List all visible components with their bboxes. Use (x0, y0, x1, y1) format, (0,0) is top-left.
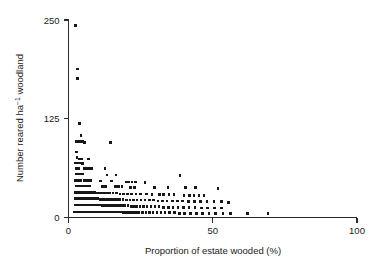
data-point (206, 207, 209, 210)
data-point (122, 193, 125, 196)
data-point (83, 167, 86, 170)
data-point (76, 68, 79, 71)
data-point (182, 206, 185, 209)
data-point (164, 211, 167, 214)
x-axis-title: Proportion of estate wooded (%) (145, 245, 281, 256)
data-point (115, 192, 118, 195)
data-point (160, 211, 163, 214)
data-point (144, 181, 147, 184)
data-point (229, 212, 232, 215)
data-point (135, 205, 138, 208)
data-point (130, 193, 133, 196)
data-point (83, 179, 86, 182)
data-point (127, 204, 130, 207)
data-point (79, 140, 82, 143)
data-point (213, 207, 216, 210)
data-point (126, 193, 129, 196)
data-point (246, 212, 249, 215)
data-point (129, 211, 132, 214)
data-point (110, 204, 113, 207)
data-point (168, 211, 171, 214)
data-point (87, 185, 90, 188)
data-point (88, 167, 91, 170)
data-point (85, 167, 88, 170)
data-point (85, 179, 88, 182)
data-point (152, 211, 155, 214)
data-point (80, 158, 83, 161)
data-point (227, 201, 230, 204)
data-point (115, 211, 118, 214)
data-point (138, 211, 141, 214)
data-point (179, 174, 182, 177)
data-point (84, 185, 87, 188)
data-point (166, 200, 169, 203)
data-point (77, 167, 80, 170)
data-point (183, 194, 186, 197)
data-point (139, 205, 142, 208)
data-point (199, 200, 202, 203)
data-point (113, 198, 116, 201)
data-point (128, 181, 131, 184)
data-point (178, 212, 181, 215)
data-point (130, 205, 133, 208)
data-point (122, 198, 125, 201)
data-point (173, 193, 176, 196)
x-tick-label-0: 0 (66, 225, 71, 236)
data-point (81, 162, 84, 165)
data-point (101, 185, 104, 188)
data-point (167, 206, 170, 209)
data-point (79, 179, 82, 182)
data-point (151, 193, 154, 196)
data-point (200, 207, 203, 210)
data-point (77, 179, 80, 182)
data-point (105, 192, 108, 195)
data-point (148, 211, 151, 214)
data-point (171, 200, 174, 203)
data-point (132, 199, 135, 202)
data-point (117, 204, 120, 207)
data-point (141, 211, 144, 214)
data-point (87, 179, 90, 182)
x-tick-label-100: 100 (349, 225, 365, 236)
x-axis-ticks (69, 218, 358, 223)
data-point (176, 200, 179, 203)
data-point (80, 134, 83, 137)
data-point (95, 192, 98, 195)
data-point (77, 173, 80, 176)
data-point (90, 179, 93, 182)
data-point (148, 199, 151, 202)
data-point (142, 205, 145, 208)
scatter-plot: 0125250 050100 Proportion of estate wood… (0, 0, 383, 262)
data-point (129, 186, 132, 189)
y-axis-tick-labels: 0125250 (44, 15, 60, 224)
data-point (112, 204, 115, 207)
data-point (99, 198, 102, 201)
chart-figure: 0125250 050100 Proportion of estate wood… (0, 0, 383, 262)
data-point (117, 211, 120, 214)
data-point (90, 167, 93, 170)
data-point (98, 192, 101, 195)
data-point (76, 162, 79, 165)
data-point (104, 185, 107, 188)
data-point (220, 207, 223, 210)
data-point (82, 185, 85, 188)
data-point (119, 204, 122, 207)
data-point (194, 206, 197, 209)
data-point (173, 211, 176, 214)
data-point (108, 192, 111, 195)
data-point (193, 200, 196, 203)
data-point (135, 211, 138, 214)
data-point (110, 180, 113, 183)
data-point (162, 193, 165, 196)
data-point (189, 212, 192, 215)
data-point (93, 191, 96, 194)
data-point (139, 193, 142, 196)
data-point (78, 158, 81, 161)
data-point (168, 193, 171, 196)
data-point (194, 186, 197, 189)
data-point (132, 205, 135, 208)
data-point (77, 140, 80, 143)
data-point (75, 151, 78, 154)
data-point (126, 211, 129, 214)
data-point (78, 122, 81, 125)
